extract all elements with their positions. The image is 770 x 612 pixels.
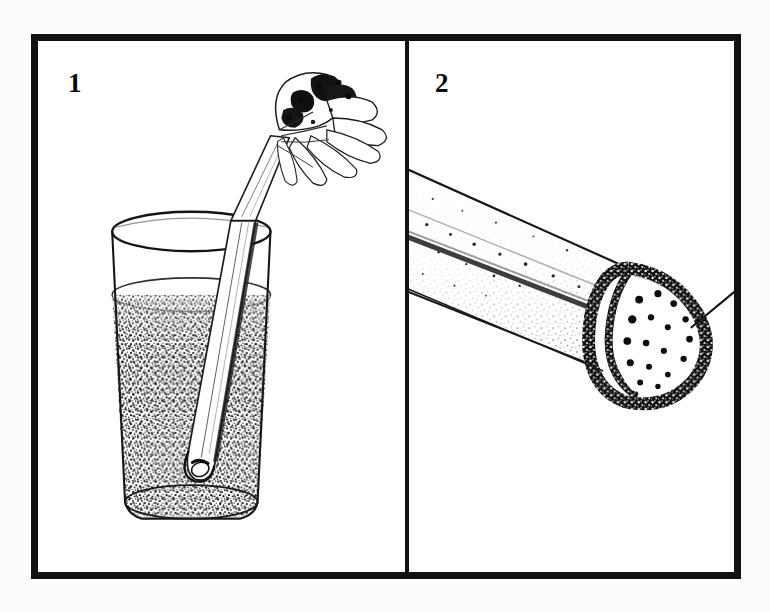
panel-2: 2 <box>405 34 741 579</box>
panel-1-artwork <box>38 41 405 572</box>
panel-1: 1 <box>31 34 409 579</box>
panel-1-number: 1 <box>68 70 82 97</box>
panel-2-artwork <box>409 41 734 572</box>
stalk-lower-edge-line <box>409 288 603 371</box>
panel-2-number: 2 <box>435 70 449 97</box>
figure-root: 1 <box>0 0 770 612</box>
cut-edge-leader-line <box>692 290 734 328</box>
